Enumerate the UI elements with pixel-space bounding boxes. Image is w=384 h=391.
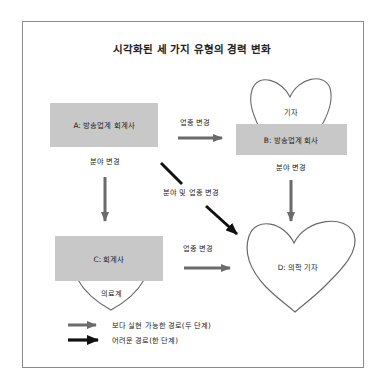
edge-b-to-d-label: 분야 변경 bbox=[276, 163, 306, 172]
edge-c-to-d-label: 업종 변경 bbox=[183, 244, 213, 253]
diagram-title: 시각화된 세 가지 유형의 경력 변화 bbox=[113, 43, 271, 55]
edge-a-to-b-label: 업종 변경 bbox=[180, 118, 210, 127]
node-d-label: D: 의학 기자 bbox=[278, 263, 319, 272]
edge-a-to-c-label: 분야 변경 bbox=[90, 157, 120, 166]
legend-gray-label: 보다 실현 가능한 경로(두 단계) bbox=[112, 321, 211, 330]
node-b-heart-label: 기자 bbox=[284, 108, 298, 117]
node-a-label: A: 방송업계 회계사 bbox=[73, 121, 134, 130]
legend-black-label: 어려운 경로(한 단계) bbox=[112, 336, 178, 345]
career-change-diagram: 시각화된 세 가지 유형의 경력 변화 A: 방송업계 회계사 기자 B: 방송… bbox=[0, 0, 384, 391]
node-a: A: 방송업계 회계사 bbox=[50, 103, 158, 147]
edge-a-to-d-label: 분야 및 업종 변경 bbox=[163, 188, 219, 197]
node-c-label: C: 회계사 bbox=[94, 255, 125, 264]
node-b-label: B: 방송업계 회사 bbox=[264, 136, 318, 145]
node-c-heart-label: 의료계 bbox=[101, 289, 122, 298]
